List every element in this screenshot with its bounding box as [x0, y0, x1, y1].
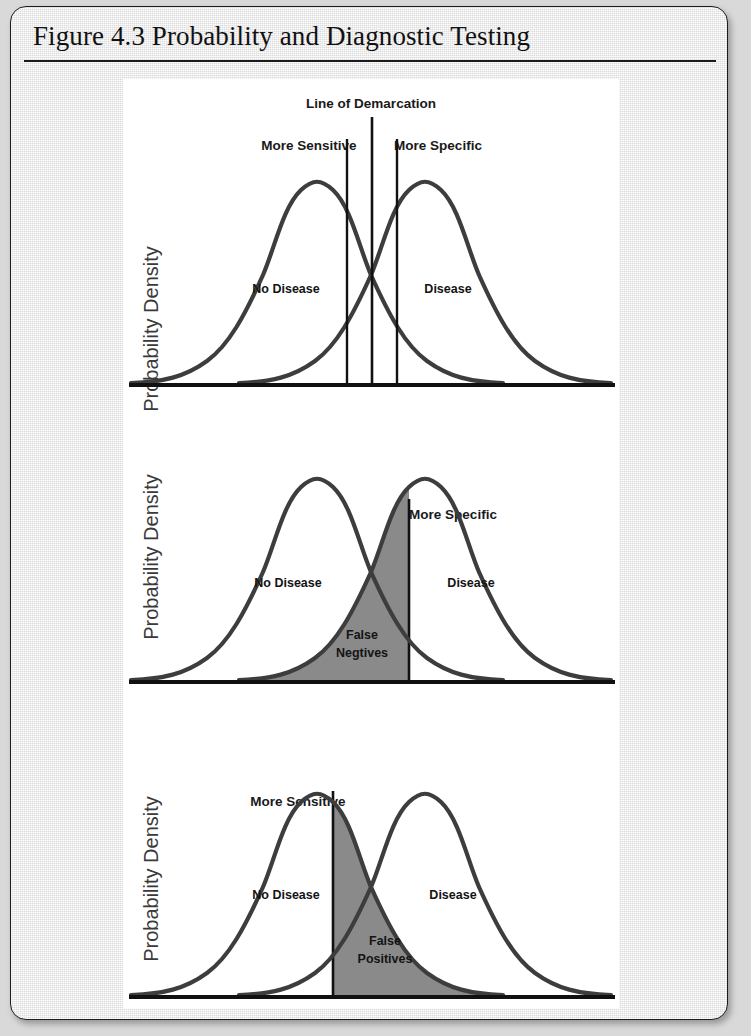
panel-2-more-specific-label: More Specific	[409, 507, 497, 522]
panel-2-no-disease-label: No Disease	[254, 576, 321, 590]
title-divider	[24, 60, 716, 62]
figure-svg: Probability Density Line of Demarcation …	[123, 79, 619, 1009]
figure-card: Figure 4.3 Probability and Diagnostic Te…	[10, 6, 728, 1020]
panel-2-false-negatives-label-line2: Negtives	[336, 646, 388, 660]
panel-3-disease-label: Disease	[429, 888, 476, 902]
panel-1-demarcation-label: Line of Demarcation	[306, 96, 436, 111]
panel-1-disease-label: Disease	[424, 282, 471, 296]
panel-3-false-positives-label-line2: Positives	[358, 952, 413, 966]
panel-2-disease-label: Disease	[447, 576, 494, 590]
panel-1-more-sensitive-label: More Sensitive	[261, 138, 357, 153]
panel-1-no-disease-label: No Disease	[252, 282, 319, 296]
panel-3-false-positives-label-line1: False	[369, 934, 401, 948]
panel-3-y-axis-label: Probability Density	[140, 796, 162, 962]
panel-1-line-of-demarcation: Probability Density Line of Demarcation …	[129, 96, 615, 412]
panel-3-no-disease-label: No Disease	[252, 888, 319, 902]
plot-surface: Probability Density Line of Demarcation …	[123, 79, 619, 1009]
figure-title: Figure 4.3 Probability and Diagnostic Te…	[33, 21, 633, 52]
panel-2-y-axis-label: Probability Density	[140, 474, 162, 640]
panel-3-false-positives: Probability Density More Sensitive No Di…	[129, 791, 615, 1009]
panel-2-false-negatives-label-line1: False	[346, 628, 378, 642]
panel-2-false-negatives: Probability Density More Specific No Dis…	[129, 474, 615, 682]
panel-1-more-specific-label: More Specific	[394, 138, 482, 153]
